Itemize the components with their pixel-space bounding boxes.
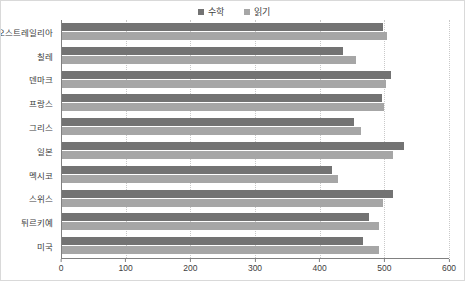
- x-tick: 500: [377, 259, 391, 274]
- bar-math[interactable]: [62, 190, 393, 198]
- bar-row: [62, 187, 449, 211]
- x-tick-label: 500: [377, 262, 391, 274]
- legend-swatch-reading: [244, 9, 250, 15]
- x-tick-label: 100: [119, 262, 133, 274]
- x-tick-label: 200: [183, 262, 197, 274]
- x-tick: 0: [59, 259, 64, 274]
- bar-rows: [62, 20, 449, 258]
- bar-reading[interactable]: [62, 56, 356, 64]
- x-tick-label: 300: [248, 262, 262, 274]
- bar-row: [62, 139, 449, 163]
- category-label: 미국: [1, 234, 57, 258]
- bar-math[interactable]: [62, 118, 354, 126]
- bar-reading[interactable]: [62, 222, 379, 230]
- category-label: 멕시코: [1, 163, 57, 187]
- bar-reading[interactable]: [62, 80, 386, 88]
- category-label: 스위스: [1, 187, 57, 211]
- legend-item-math[interactable]: 수학: [198, 8, 224, 17]
- bar-math[interactable]: [62, 47, 343, 55]
- category-label: 칠레: [1, 44, 57, 68]
- x-tick-label: 0: [59, 262, 64, 274]
- bar-row: [62, 44, 449, 68]
- gridline: [449, 20, 450, 258]
- bar-reading[interactable]: [62, 175, 338, 183]
- legend-swatch-math: [198, 9, 204, 15]
- bar-row: [62, 210, 449, 234]
- bar-row: [62, 115, 449, 139]
- bar-row: [62, 163, 449, 187]
- category-axis-labels: 오스트레일리아칠레덴마크프랑스그리스일본멕시코스위스튀르키예미국: [1, 20, 57, 258]
- x-tick-label: 400: [313, 262, 327, 274]
- x-tick: 100: [119, 259, 133, 274]
- bar-math[interactable]: [62, 23, 383, 31]
- bar-reading[interactable]: [62, 151, 393, 159]
- category-label: 일본: [1, 139, 57, 163]
- x-axis-ticks: 0100200300400500600: [1, 259, 465, 279]
- bar-reading[interactable]: [62, 127, 361, 135]
- bar-math[interactable]: [62, 166, 332, 174]
- category-label: 오스트레일리아: [1, 20, 57, 44]
- bar-reading[interactable]: [62, 246, 379, 254]
- x-tick: 300: [248, 259, 262, 274]
- bar-row: [62, 91, 449, 115]
- bar-math[interactable]: [62, 213, 369, 221]
- x-tick: 400: [313, 259, 327, 274]
- bar-math[interactable]: [62, 237, 363, 245]
- bar-reading[interactable]: [62, 32, 387, 40]
- bar-math[interactable]: [62, 94, 382, 102]
- legend-label-reading: 읽기: [254, 8, 270, 17]
- x-tick-label: 600: [442, 262, 456, 274]
- bar-chart: 수학 읽기 오스트레일리아칠레덴마크프랑스그리스일본멕시코스위스튀르키예미국 0…: [0, 0, 465, 281]
- x-tick: 200: [183, 259, 197, 274]
- category-label: 프랑스: [1, 91, 57, 115]
- bar-reading[interactable]: [62, 103, 384, 111]
- bar-reading[interactable]: [62, 199, 383, 207]
- plot-area: [61, 20, 449, 258]
- bar-row: [62, 68, 449, 92]
- bar-math[interactable]: [62, 142, 404, 150]
- category-label: 튀르키예: [1, 210, 57, 234]
- category-label: 덴마크: [1, 68, 57, 92]
- chart-legend: 수학 읽기: [1, 4, 465, 20]
- x-tick: 600: [442, 259, 456, 274]
- bar-row: [62, 20, 449, 44]
- bar-math[interactable]: [62, 71, 391, 79]
- legend-label-math: 수학: [208, 8, 224, 17]
- bar-row: [62, 234, 449, 258]
- category-label: 그리스: [1, 115, 57, 139]
- legend-item-reading[interactable]: 읽기: [244, 8, 270, 17]
